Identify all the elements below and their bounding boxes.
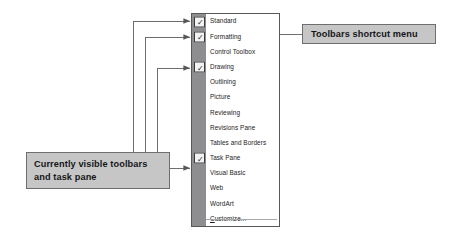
checkbox-checked-icon[interactable]: ✓ xyxy=(194,16,205,27)
menu-separator xyxy=(206,219,277,220)
menu-item-customize[interactable]: Customize... xyxy=(192,211,279,226)
menu-item-label: WordArt xyxy=(206,201,234,207)
menu-item-check-cell: ✓ xyxy=(192,14,206,29)
menu-item-check-cell: ✓ xyxy=(192,151,206,166)
callout-line-2: and task pane xyxy=(34,171,162,184)
menu-item-check-cell xyxy=(192,181,206,196)
check-icon: ✓ xyxy=(196,33,204,42)
menu-item-standard[interactable]: ✓Standard xyxy=(192,14,279,29)
menu-item-label: Visual Basic xyxy=(206,170,245,176)
menu-item-revisions-pane[interactable]: Revisions Pane xyxy=(192,120,279,135)
callout-text: Toolbars shortcut menu xyxy=(311,29,418,39)
menu-item-check-cell xyxy=(192,90,206,105)
menu-item-label: Reviewing xyxy=(206,110,240,116)
menu-item-check-cell xyxy=(192,136,206,151)
menu-item-label: Control Toolbox xyxy=(206,49,255,55)
menu-item-check-cell: ✓ xyxy=(192,60,206,75)
menu-item-picture[interactable]: Picture xyxy=(192,90,279,105)
menu-item-label: Tables and Borders xyxy=(206,140,266,146)
menu-item-formatting[interactable]: ✓Formatting xyxy=(192,29,279,44)
menu-item-label: Web xyxy=(206,185,223,191)
check-icon: ✓ xyxy=(196,18,204,27)
menu-item-list: ✓Standard✓FormattingControl Toolbox✓Draw… xyxy=(192,14,279,226)
menu-item-check-cell xyxy=(192,44,206,59)
callout-toolbars-shortcut-menu: Toolbars shortcut menu xyxy=(302,24,436,44)
menu-item-label: Standard xyxy=(206,18,236,24)
check-icon: ✓ xyxy=(196,63,204,72)
leader-line-standard xyxy=(133,21,190,152)
callout-line-1: Currently visible toolbars xyxy=(34,158,162,171)
menu-item-reviewing[interactable]: Reviewing xyxy=(192,105,279,120)
checkbox-checked-icon[interactable]: ✓ xyxy=(194,153,205,164)
menu-item-label: Picture xyxy=(206,94,230,100)
menu-item-check-cell xyxy=(192,75,206,90)
menu-item-check-cell: ✓ xyxy=(192,29,206,44)
menu-item-label: Drawing xyxy=(206,64,234,70)
menu-item-label: Task Pane xyxy=(206,155,240,161)
menu-item-check-cell xyxy=(192,196,206,211)
menu-item-drawing[interactable]: ✓Drawing xyxy=(192,60,279,75)
checkbox-checked-icon[interactable]: ✓ xyxy=(194,31,205,42)
menu-item-check-cell xyxy=(192,105,206,120)
check-icon: ✓ xyxy=(196,154,204,163)
menu-item-label: Formatting xyxy=(206,34,241,40)
menu-item-label: Outlining xyxy=(206,79,236,85)
screenshot-root: ✓Standard✓FormattingControl Toolbox✓Draw… xyxy=(0,0,459,250)
callout-currently-visible-toolbars: Currently visible toolbars and task pane xyxy=(26,152,170,189)
menu-item-wordart[interactable]: WordArt xyxy=(192,196,279,211)
menu-item-check-cell xyxy=(192,166,206,181)
menu-item-web[interactable]: Web xyxy=(192,181,279,196)
menu-item-label: Revisions Pane xyxy=(206,125,255,131)
menu-item-tables-and-borders[interactable]: Tables and Borders xyxy=(192,136,279,151)
menu-item-task-pane[interactable]: ✓Task Pane xyxy=(192,151,279,166)
menu-item-control-toolbox[interactable]: Control Toolbox xyxy=(192,44,279,59)
menu-item-visual-basic[interactable]: Visual Basic xyxy=(192,166,279,181)
checkbox-checked-icon[interactable]: ✓ xyxy=(194,62,205,73)
leader-line-formatting xyxy=(145,37,190,152)
menu-item-outlining[interactable]: Outlining xyxy=(192,75,279,90)
toolbars-shortcut-menu[interactable]: ✓Standard✓FormattingControl Toolbox✓Draw… xyxy=(191,13,280,227)
menu-item-check-cell xyxy=(192,211,206,226)
menu-item-check-cell xyxy=(192,120,206,135)
leader-line-drawing xyxy=(157,68,190,152)
